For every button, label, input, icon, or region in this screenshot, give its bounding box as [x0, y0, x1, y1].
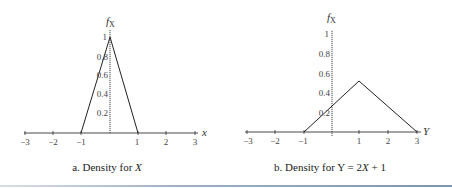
chart-a-ylabel: fX [106, 15, 115, 29]
chart-b-ytick-1: 1 [325, 29, 330, 39]
chart-b-ytick-0-4: 0.4 [319, 88, 331, 98]
chart-a-xtick-m2: −2 [48, 137, 58, 147]
chart-a-caption-text: a. Density for [72, 161, 135, 173]
chart-a-xtick-2: 2 [164, 137, 169, 147]
chart-a [24, 30, 198, 135]
chart-b-ytick-0-6: 0.6 [319, 69, 331, 79]
chart-a-ytick-0-6: 0.6 [97, 70, 109, 80]
chart-a-labels: −3 −2 −1 1 2 3 0.2 0.4 0.6 0.8 1 fX x [20, 15, 207, 147]
chart-b-xtick-m3: −3 [243, 136, 253, 146]
chart-b-xlabel: Y [423, 125, 431, 137]
chart-a-ytick-1: 1 [103, 32, 108, 42]
chart-a-xtick-m1: −1 [76, 137, 86, 147]
chart-b-xtick-m1: −1 [298, 136, 308, 146]
density-figure: −3 −2 −1 1 2 3 0.2 0.4 0.6 0.8 1 fX x −3… [0, 0, 452, 188]
chart-a-xlabel: x [201, 126, 207, 138]
chart-a-ytick-0-4: 0.4 [97, 89, 109, 99]
chart-a-ytick-0-2: 0.2 [97, 108, 108, 118]
chart-a-xtick-3: 3 [193, 137, 198, 147]
chart-b-labels: −3 −2 −1 1 2 3 0.2 0.4 0.6 0.8 1 fX Y [243, 11, 431, 146]
bottom-divider [0, 185, 452, 187]
chart-b-ylabel: fX [327, 11, 336, 25]
chart-b-xtick-1: 1 [357, 136, 362, 146]
chart-a-caption-var: X [135, 161, 142, 173]
chart-a-xtick-m3: −3 [20, 137, 30, 147]
chart-b-caption-text: b. Density for Y = 2 [274, 161, 362, 173]
chart-b-caption-var: X [362, 161, 369, 173]
chart-b-caption-suffix: + 1 [369, 161, 386, 173]
chart-a-xtick-1: 1 [135, 137, 140, 147]
chart-b-xtick-m2: −2 [270, 136, 280, 146]
chart-b-ytick-0-2: 0.2 [319, 108, 330, 118]
chart-b-xtick-2: 2 [386, 136, 391, 146]
chart-b [245, 30, 421, 136]
chart-b-caption: b. Density for Y = 2X + 1 [274, 161, 386, 173]
chart-a-caption: a. Density for X [72, 161, 142, 173]
chart-b-xtick-3: 3 [415, 136, 420, 146]
chart-a-density-line [81, 37, 138, 133]
chart-a-ytick-0-8: 0.8 [97, 52, 109, 62]
chart-b-ytick-0-8: 0.8 [319, 49, 331, 59]
